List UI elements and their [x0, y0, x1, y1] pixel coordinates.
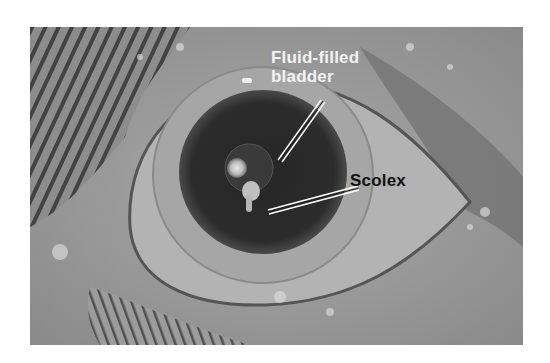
label-line: Fluid-filled: [271, 48, 359, 67]
fluid-filled-bladder: [227, 158, 247, 178]
scolex-neck: [246, 195, 252, 212]
fluid-filled-bladder-label: Fluid-filled bladder: [271, 48, 359, 86]
lid-highlight: [242, 78, 252, 83]
scolex-label: Scolex: [350, 171, 406, 190]
label-line: bladder: [271, 67, 359, 86]
